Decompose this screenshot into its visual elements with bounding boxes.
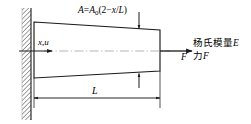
youngs-modulus-symbol: E [233, 38, 239, 48]
youngs-modulus-label: 杨氏模量E [193, 38, 239, 49]
diagram-drawing [0, 0, 251, 124]
length-symbol-label: L [92, 86, 98, 96]
area-formula-close: ) [124, 5, 127, 15]
tapered-bar-outline [34, 22, 160, 78]
fixed-support-wall [22, 8, 31, 120]
x-u-axis-label: x,u [38, 38, 49, 47]
axis-label-u: u [44, 37, 49, 47]
applied-force-symbol: F [203, 51, 209, 61]
diagram-canvas: A=A0(2−x/L) x,u F L 杨氏模量E 力F [0, 0, 251, 124]
force-symbol-label: F [181, 53, 187, 63]
youngs-modulus-text: 杨氏模量 [193, 37, 233, 48]
area-formula-label: A=A0(2−x/L) [78, 6, 127, 17]
applied-force-text: 力 [193, 50, 203, 61]
applied-force-label: 力F [193, 51, 209, 62]
